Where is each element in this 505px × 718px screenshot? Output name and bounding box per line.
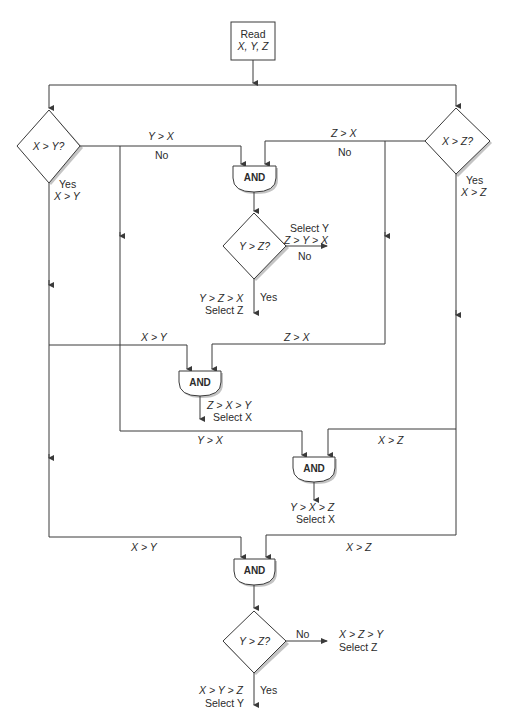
mid-no-cond: Z > Y > X (284, 234, 328, 246)
and-gate-4-label: AND (234, 565, 275, 576)
bottom-no-select: Select Z (339, 641, 378, 653)
edge-label-left-no: No (155, 149, 168, 161)
decision-right-label: X > Z? (425, 135, 490, 147)
decision-left-label: X > Y? (17, 140, 80, 152)
mid-no-label: No (298, 250, 311, 262)
edge-label-and2-left: X > Y (141, 331, 167, 343)
edge-label-y-gt-x: Y > X (148, 130, 174, 142)
and-gate-1-label: AND (233, 172, 276, 183)
and3-outcome-cond: Y > X > Z (290, 501, 334, 513)
bottom-yes-label: Yes (260, 684, 277, 696)
edge-label-right-yes-cond: X > Z (461, 186, 486, 198)
and-gate-3-label: AND (293, 463, 335, 474)
and2-outcome-select: Select X (213, 411, 252, 423)
bottom-yes-select: Select Y (205, 697, 244, 709)
edge-label-and4-right: X > Z (346, 541, 371, 553)
start-line2: X, Y, Z (231, 40, 275, 52)
bottom-no-cond: X > Z > Y (339, 628, 383, 640)
edge-label-left-yes: Yes (59, 178, 76, 190)
and3-outcome-select: Select X (296, 513, 335, 525)
edge-label-right-yes: Yes (466, 174, 483, 186)
and-gate-2-label: AND (179, 377, 221, 388)
start-line1: Read (231, 28, 275, 40)
edge-label-and2-right: Z > X (284, 331, 309, 343)
edge-label-left-yes-cond: X > Y (54, 190, 80, 202)
edge-label-and4-left: X > Y (131, 541, 157, 553)
decision-bottom-label: Y > Z? (223, 635, 286, 647)
bottom-yes-cond: X > Y > Z (199, 684, 243, 696)
start-label: Read X, Y, Z (231, 28, 275, 52)
mid-yes-select: Select Z (205, 304, 244, 316)
mid-no-select: Select Y (290, 222, 329, 234)
and2-outcome-cond: Z > X > Y (207, 399, 251, 411)
flowchart-canvas (0, 0, 505, 718)
decision-mid-label: Y > Z? (223, 240, 286, 252)
edge-label-right-no: No (338, 146, 351, 158)
edge-label-z-gt-x: Z > X (331, 127, 356, 139)
bottom-no-label: No (296, 628, 309, 640)
mid-yes-label: Yes (260, 291, 277, 303)
mid-yes-cond: Y > Z > X (199, 292, 243, 304)
edge-label-and3-left: Y > X (197, 434, 223, 446)
edge-label-and3-right: X > Z (378, 434, 403, 446)
